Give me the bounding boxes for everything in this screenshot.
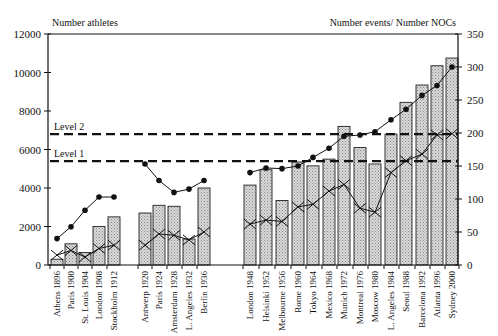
right-tick-label: 300 <box>467 61 484 73</box>
nocs-marker-dot-icon <box>111 194 117 200</box>
bar-helsinki-1952 <box>260 170 272 265</box>
right-tick-label: 250 <box>467 94 484 106</box>
nocs-marker-dot-icon <box>295 163 301 169</box>
x-tick-label: Helsinki 1952 <box>261 271 271 322</box>
x-tick-label: London 1948 <box>245 271 255 320</box>
nocs-line <box>145 164 204 192</box>
left-tick-label: 12000 <box>14 28 42 40</box>
nocs-marker-dot-icon <box>142 161 148 167</box>
right-tick-label: 50 <box>467 226 479 238</box>
x-tick-label: Seoul 1988 <box>401 271 411 312</box>
bar-munich-1972 <box>338 126 350 265</box>
nocs-marker-dot-icon <box>357 132 363 138</box>
olympics-chart: Level 2Level 1 0200040006000800010000120… <box>0 0 498 336</box>
left-tick-label: 2000 <box>19 221 42 233</box>
x-tick-label: L. Angeles 1932 <box>184 271 194 330</box>
x-tick-label: Stockholm 1912 <box>109 271 119 330</box>
bar-london-1948 <box>244 185 256 265</box>
bar-london-1908 <box>93 227 105 266</box>
nocs-marker-dot-icon <box>201 178 207 184</box>
x-tick-label: Moscow 1980 <box>370 271 380 323</box>
bar-antwerp-1920 <box>139 213 151 265</box>
x-tick-label: Amsterdam 1928 <box>169 271 179 334</box>
left-axis-title: Number athletes <box>52 17 118 28</box>
x-tick-label: Paris 1924 <box>154 271 164 310</box>
nocs-marker-dot-icon <box>449 64 455 70</box>
axes: 0200040006000800010000120000501001502002… <box>14 17 485 333</box>
x-tick-label: Melbourne 1956 <box>277 271 287 331</box>
bar-berlin-1936 <box>198 188 210 265</box>
bar-melbourne-1956 <box>276 201 288 265</box>
nocs-marker-dot-icon <box>247 170 253 176</box>
nocs-marker-dot-icon <box>388 117 394 123</box>
right-tick-label: 150 <box>467 160 484 172</box>
nocs-marker-dot-icon <box>372 129 378 135</box>
x-tick-label: Paris 1900 <box>66 271 76 310</box>
bar-moscow-1980 <box>369 164 381 265</box>
nocs-marker-dot-icon <box>68 224 74 230</box>
bar-athens-1896 <box>51 259 63 265</box>
x-tick-label: Mexico 1968 <box>324 271 334 319</box>
nocs-marker-dot-icon <box>419 93 425 99</box>
nocs-marker-dot-icon <box>171 190 177 196</box>
right-tick-label: 200 <box>467 127 484 139</box>
right-axis-title: Number events/ Number NOCs <box>330 17 456 28</box>
nocs-marker-dot-icon <box>310 155 316 161</box>
nocs-marker-dot-icon <box>279 166 285 172</box>
nocs-marker-dot-icon <box>263 165 269 171</box>
level-2-label: Level 2 <box>54 121 84 132</box>
bar-montreal-1976 <box>354 148 366 265</box>
x-tick-label: St. Louis 1904 <box>80 271 90 324</box>
x-tick-label: Tokyo 1964 <box>308 271 318 315</box>
nocs-marker-dot-icon <box>186 186 192 192</box>
x-tick-label: Sydney 2000 <box>447 271 457 319</box>
level-1-label: Level 1 <box>54 148 84 159</box>
x-tick-label: Berlin 1936 <box>199 271 209 314</box>
x-tick-label: Barcelona 1992 <box>417 271 427 328</box>
bar-tokyo-1964 <box>307 166 319 265</box>
x-tick-label: Munich 1972 <box>339 271 349 319</box>
bar-barcelona-1992 <box>416 85 428 265</box>
left-tick-label: 4000 <box>19 182 42 194</box>
x-tick-label: Atlanta 1996 <box>432 271 442 318</box>
nocs-marker-dot-icon <box>403 106 409 112</box>
x-tick-label: Montreal 1976 <box>355 271 365 325</box>
x-tick-label: Athens 1896 <box>52 271 62 317</box>
nocs-marker-dot-icon <box>156 178 162 184</box>
bar-atlanta-1996 <box>431 66 443 265</box>
bar-mexico-1968 <box>323 159 335 265</box>
left-tick-label: 8000 <box>19 105 42 117</box>
bar-rome-1960 <box>292 162 304 265</box>
right-tick-label: 350 <box>467 28 484 40</box>
x-tick-label: Antwerp 1920 <box>140 271 150 323</box>
nocs-marker-dot-icon <box>341 134 347 140</box>
bar-seoul-1988 <box>400 102 412 265</box>
nocs-marker-dot-icon <box>434 83 440 89</box>
x-tick-label: L. Angeles 1984 <box>386 271 396 331</box>
right-tick-label: 100 <box>467 193 484 205</box>
left-tick-label: 6000 <box>19 144 42 156</box>
nocs-marker-dot-icon <box>326 145 332 151</box>
bar-l-angeles-1984 <box>385 134 397 265</box>
bar-stockholm-1912 <box>108 217 120 265</box>
nocs-marker-dot-icon <box>82 207 88 213</box>
bar-paris-1924 <box>153 205 165 265</box>
nocs-marker-dot-icon <box>96 194 102 200</box>
x-tick-label: London 1908 <box>94 271 104 320</box>
right-tick-label: 0 <box>467 259 473 271</box>
nocs-marker-dot-icon <box>54 236 60 242</box>
events-marker-x-icon <box>51 250 63 260</box>
chart-canvas: Level 2Level 1 0200040006000800010000120… <box>0 0 498 336</box>
x-tick-label: Rome 1960 <box>293 271 303 313</box>
left-tick-label: 10000 <box>14 67 42 79</box>
left-tick-label: 0 <box>36 259 42 271</box>
